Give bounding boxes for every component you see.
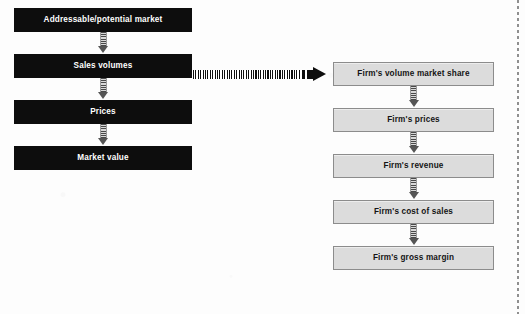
- box-label: Addressable/potential market: [44, 16, 163, 24]
- page-margin-rule: [517, 0, 519, 314]
- box-label: Firm's prices: [387, 116, 440, 124]
- market-level-chain: Addressable/potential market Sales volum…: [14, 8, 192, 170]
- box-firms-gross-margin[interactable]: Firm's gross margin: [333, 246, 494, 270]
- box-label: Firm's volume market share: [357, 70, 469, 78]
- arrow-head-icon: [98, 138, 108, 145]
- arrow-head-icon: [409, 100, 419, 107]
- arrow-shaft: [410, 86, 417, 100]
- box-label: Firm's cost of sales: [374, 208, 453, 216]
- connector-arrow-down-4: [333, 86, 494, 108]
- box-firms-revenue[interactable]: Firm's revenue: [333, 154, 494, 178]
- diagram-canvas: Addressable/potential market Sales volum…: [0, 0, 525, 314]
- box-addressable-potential-market[interactable]: Addressable/potential market: [14, 8, 192, 32]
- arrow-head-icon: [313, 67, 326, 81]
- arrow-shaft: [100, 32, 107, 46]
- arrow-head-icon: [409, 238, 419, 245]
- connector-arrow-down-6: [333, 178, 494, 200]
- arrow-dash: [302, 70, 305, 79]
- arrow-head-icon: [409, 192, 419, 199]
- connector-arrow-down-1: [14, 32, 192, 54]
- box-firms-cost-of-sales[interactable]: Firm's cost of sales: [333, 200, 494, 224]
- arrow-shaft: [100, 124, 107, 138]
- arrow-shaft: [410, 132, 417, 146]
- box-label: Firm's gross margin: [373, 254, 454, 262]
- box-label: Market value: [77, 154, 128, 162]
- box-sales-volumes[interactable]: Sales volumes: [14, 54, 192, 78]
- box-label: Firm's revenue: [383, 162, 443, 170]
- box-market-value[interactable]: Market value: [14, 146, 192, 170]
- connector-arrow-down-2: [14, 78, 192, 100]
- box-firms-volume-market-share[interactable]: Firm's volume market share: [333, 62, 494, 86]
- connector-arrow-down-7: [333, 224, 494, 246]
- arrow-shaft: [100, 78, 107, 92]
- box-label: Sales volumes: [74, 62, 133, 70]
- box-label: Prices: [90, 108, 115, 116]
- box-prices[interactable]: Prices: [14, 100, 192, 124]
- arrow-head-icon: [98, 46, 108, 53]
- connector-arrow-down-3: [14, 124, 192, 146]
- sales-volumes-to-firm-share-arrow: [193, 68, 331, 81]
- arrow-head-icon: [409, 146, 419, 153]
- firm-level-chain: Firm's volume market share Firm's prices…: [333, 62, 494, 270]
- box-firms-prices[interactable]: Firm's prices: [333, 108, 494, 132]
- arrow-shaft: [193, 70, 301, 79]
- arrow-head-icon: [98, 92, 108, 99]
- arrow-shaft: [410, 178, 417, 192]
- arrow-shaft: [410, 224, 417, 238]
- connector-arrow-down-5: [333, 132, 494, 154]
